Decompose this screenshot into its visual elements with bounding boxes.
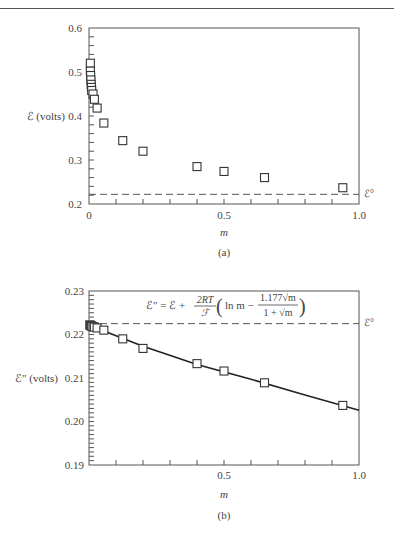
data-marker bbox=[90, 95, 98, 103]
panel-b-caption: (b) bbox=[218, 509, 231, 522]
data-marker bbox=[100, 326, 108, 334]
panel-b-equation: ℰ" = ℰ + 2RT ℱ ( ln m − 1.177√m 1 + √m ) bbox=[146, 292, 306, 318]
panel-a-xtick-0: 0 bbox=[86, 209, 92, 221]
data-marker bbox=[193, 163, 201, 171]
data-marker bbox=[119, 335, 127, 343]
data-marker bbox=[93, 104, 101, 112]
equation-rparen: ) bbox=[299, 295, 306, 318]
panel-b-chart: 0.23 0.22 0.21 0.20 0.19 ℰ" (volts) 0.5 … bbox=[15, 285, 374, 522]
equation-inner-num: 1.177√m bbox=[260, 292, 296, 303]
panel-a-ylabel: ℰ (volts) bbox=[27, 110, 66, 123]
equation-frac-den: ℱ bbox=[201, 307, 211, 318]
figure: 0.6 0.5 0.4 0.3 0.2 ℰ (volts) 0 0.5 1.0 … bbox=[0, 0, 394, 544]
panel-a-xtick-0.5: 0.5 bbox=[217, 209, 231, 221]
panel-b-ticks bbox=[89, 295, 332, 465]
data-marker bbox=[220, 167, 228, 175]
panel-b-ytick-0.20: 0.20 bbox=[65, 415, 85, 427]
equation-lhs: ℰ" = ℰ + bbox=[146, 299, 185, 311]
panel-a-ytick-0.5: 0.5 bbox=[68, 66, 82, 78]
panel-a-xtick-1.0: 1.0 bbox=[352, 209, 366, 221]
data-marker bbox=[193, 360, 201, 368]
panel-a-markers bbox=[86, 59, 346, 192]
equation-ln: ln m − bbox=[225, 299, 254, 311]
panel-b-xlabel: m bbox=[220, 488, 228, 500]
panel-b-ref-label: ℰ° bbox=[364, 317, 374, 328]
equation-lparen: ( bbox=[216, 295, 223, 318]
equation-frac-num: 2RT bbox=[197, 294, 215, 305]
data-marker bbox=[139, 147, 147, 155]
panel-b-xtick-1.0: 1.0 bbox=[352, 469, 366, 481]
panel-b-frame bbox=[89, 291, 359, 465]
data-marker bbox=[261, 174, 269, 182]
panel-a-frame bbox=[89, 28, 359, 204]
data-marker bbox=[86, 59, 94, 67]
data-marker bbox=[339, 184, 347, 192]
panel-b-xtick-0.5: 0.5 bbox=[217, 469, 231, 481]
panel-a-ytick-0.2: 0.2 bbox=[68, 198, 82, 210]
equation-inner-den: 1 + √m bbox=[264, 307, 293, 318]
panel-a-chart: 0.6 0.5 0.4 0.3 0.2 ℰ (volts) 0 0.5 1.0 … bbox=[27, 22, 374, 259]
panel-a-caption: (a) bbox=[218, 246, 231, 259]
panel-a-ytick-0.6: 0.6 bbox=[68, 22, 82, 34]
data-marker bbox=[220, 367, 228, 375]
panel-a-ytick-0.4: 0.4 bbox=[68, 110, 82, 122]
panel-a-ytick-0.3: 0.3 bbox=[68, 154, 82, 166]
data-marker bbox=[139, 344, 147, 352]
data-marker bbox=[339, 401, 347, 409]
panel-b-ytick-0.23: 0.23 bbox=[65, 285, 85, 297]
panel-b-ytick-0.22: 0.22 bbox=[65, 328, 84, 340]
panel-b-ylabel: ℰ" (volts) bbox=[15, 372, 58, 385]
panel-b-ytick-0.21: 0.21 bbox=[65, 372, 84, 384]
data-marker bbox=[261, 379, 269, 387]
panel-a-xlabel: m bbox=[220, 226, 228, 238]
panel-b-ytick-0.19: 0.19 bbox=[65, 459, 85, 471]
data-marker bbox=[100, 119, 108, 127]
data-marker bbox=[119, 137, 127, 145]
panel-a-ref-label: ℰ° bbox=[364, 188, 374, 199]
panel-a-ticks bbox=[89, 37, 332, 204]
